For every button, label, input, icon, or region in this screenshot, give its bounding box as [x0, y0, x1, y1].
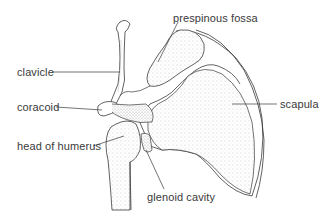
label-glenoid-cavity: glenoid cavity	[147, 191, 215, 203]
leader-coracoid	[56, 107, 102, 110]
label-coracoid: coracoid	[17, 101, 59, 113]
glenoid-cavity-shape	[141, 133, 152, 152]
shoulder-girdle-diagram: prespinous fossa clavicle coracoid scapu…	[0, 0, 327, 212]
humerus-shape	[106, 121, 141, 210]
label-prespinous-fossa: prespinous fossa	[173, 12, 258, 24]
label-head-of-humerus: head of humerus	[17, 140, 101, 152]
leader-glenoid-cavity	[146, 150, 164, 189]
label-scapula: scapula	[280, 98, 319, 110]
label-clavicle: clavicle	[17, 66, 54, 78]
coracoid-shape	[98, 102, 154, 123]
